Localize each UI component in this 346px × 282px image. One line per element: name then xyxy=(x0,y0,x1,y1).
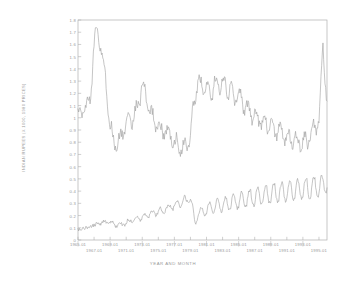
chart-figure: INDIAN RUPEES (X 1000, 1980 PRICES) YEAR… xyxy=(0,0,346,282)
x-tick-marks xyxy=(78,237,319,247)
y-tick-marks xyxy=(78,20,81,240)
lower-series-line xyxy=(78,175,327,231)
upper-series-line xyxy=(78,28,327,157)
plot-area xyxy=(0,0,346,282)
